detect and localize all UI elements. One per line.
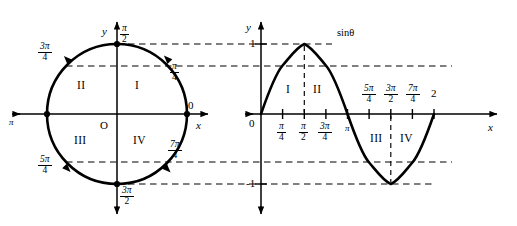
sine-xtick-3pi-2-numerator: 3π — [384, 84, 398, 94]
circle-x-axis-label: x — [196, 120, 201, 131]
circle-quadrant-4-label: IV — [133, 135, 146, 147]
circle-point-0 — [184, 111, 190, 117]
sine-xtick-7pi-4-denominator: 4 — [406, 94, 420, 105]
sine-xtick-pi-2-denominator: 2 — [299, 132, 308, 143]
circle-angle-7pi-4-numerator: 7π — [168, 140, 182, 150]
circle-angle-pi-2-denominator: 2 — [120, 34, 129, 45]
circle-angle-5pi-4-label: 5π 4 — [38, 155, 52, 175]
circle-quadrant-1-label: I — [135, 80, 139, 92]
direction-arrow-5pi-4 — [62, 164, 73, 175]
circle-origin-label: O — [100, 120, 108, 131]
figure-canvas — [0, 0, 517, 226]
sine-ytick-neg1-label: -1 — [246, 178, 255, 189]
circle-angle-3pi-2-denominator: 2 — [120, 196, 134, 207]
circle-angle-pi-2-label: π 2 — [120, 24, 129, 44]
circle-angle-pi-4-numerator: π — [170, 62, 179, 72]
sine-quadrant-3-label: III — [370, 133, 382, 145]
sine-xtick-7pi-4-numerator: 7π — [406, 84, 420, 94]
circle-angle-pi-2-numerator: π — [120, 24, 129, 34]
sine-xtick-2pi-label: 2 — [431, 88, 437, 99]
sine-xtick-pi-4-label: π 4 — [277, 122, 286, 142]
sine-xtick-5pi-4-numerator: 5π — [362, 84, 376, 94]
sine-xtick-pi-4-denominator: 4 — [277, 132, 286, 143]
sine-xtick-5pi-4-denominator: 4 — [362, 94, 376, 105]
circle-angle-7pi-4-denominator: 4 — [168, 150, 182, 161]
sine-origin-label: 0 — [249, 118, 255, 129]
sine-curve-panel — [245, 22, 497, 214]
sine-xtick-3pi-4-numerator: 3π — [318, 122, 332, 132]
circle-angle-3pi-2-label: 3π 2 — [120, 186, 134, 206]
circle-y-axis-label: y — [102, 26, 107, 37]
circle-quadrant-2-label: II — [77, 80, 85, 92]
sine-xtick-3pi-2-denominator: 2 — [384, 94, 398, 105]
sine-xtick-pi-2-numerator: π — [299, 122, 308, 132]
circle-quadrant-3-label: III — [74, 135, 86, 147]
sine-curve-label: sinθ — [337, 28, 354, 39]
sine-xtick-pi-2-label: π 2 — [299, 122, 308, 142]
circle-angle-pi-label: π — [9, 118, 14, 127]
sine-xtick-5pi-4-label: 5π 4 — [362, 84, 376, 104]
circle-angle-3pi-4-label: 3π 4 — [38, 42, 52, 62]
sine-xtick-pi-label: π — [345, 124, 350, 133]
sine-ytick-1-label: 1 — [250, 38, 256, 49]
circle-angle-5pi-4-denominator: 4 — [38, 165, 52, 176]
sine-y-axis-label: y — [246, 22, 251, 33]
circle-point-pi — [44, 111, 50, 117]
circle-angle-pi-4-label: π 4 — [170, 62, 179, 82]
circle-angle-3pi-4-denominator: 4 — [38, 52, 52, 63]
sine-x-axis-label: x — [488, 122, 493, 133]
circle-angle-7pi-4-label: 7π 4 — [168, 140, 182, 160]
circle-angle-3pi-4-numerator: 3π — [38, 42, 52, 52]
sine-quadrant-4-label: IV — [400, 133, 413, 145]
circle-angle-3pi-2-numerator: 3π — [120, 186, 134, 196]
sine-quadrant-2-label: II — [313, 84, 321, 96]
trigonometry-figure: y x O 0 π π 2 3π 4 π 4 7π 4 5π 4 3π 2 I … — [0, 0, 517, 226]
circle-angle-0-label: 0 — [188, 100, 194, 111]
sine-xtick-3pi-4-denominator: 4 — [318, 132, 332, 143]
circle-angle-5pi-4-numerator: 5π — [38, 155, 52, 165]
circle-angle-pi-4-denominator: 4 — [170, 72, 179, 83]
sine-xtick-pi-4-numerator: π — [277, 122, 286, 132]
sine-xtick-3pi-4-label: 3π 4 — [318, 122, 332, 142]
sine-quadrant-1-label: I — [286, 84, 290, 96]
sine-xtick-7pi-4-label: 7π 4 — [406, 84, 420, 104]
sine-xtick-3pi-2-label: 3π 2 — [384, 84, 398, 104]
